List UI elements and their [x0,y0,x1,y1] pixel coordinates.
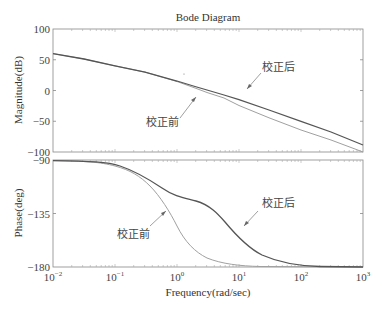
mag-tick-neg50: −50 [33,115,51,127]
chart-title: Bode Diagram [176,11,241,23]
phase-axis-label: Phase(deg) [12,188,25,237]
phase-label-after: 校正后 [262,196,295,210]
magnitude-panel: 100 50 0 −50 −100 Magnitude(dB) 校正前 校正后 [12,23,363,158]
bode-diagram: Bode Diagram 100 50 0 −50 −1 [0,0,382,311]
phase-panel: −90 −135 −180 Phase(deg) 校正前 校正后 [12,154,363,273]
x-tick-1e3: 103 [356,270,371,283]
magnitude-x-minor-ticks [72,29,361,152]
phase-tick-neg135: −135 [27,208,50,220]
mag-tick-0: 0 [45,85,51,97]
phase-tick-neg90: −90 [33,154,51,166]
phase-label-before: 校正前 [117,227,150,241]
mag-arrowhead-before [191,97,196,102]
x-tick-1e-2: 10−2 [44,270,63,283]
x-tick-1e2: 102 [294,270,309,283]
x-tick-1e1: 101 [232,270,247,283]
magnitude-curve-before [53,54,363,152]
mag-label-before: 校正前 [146,115,179,129]
x-axis-label: Frequency(rad/sec) [166,286,251,299]
x-tick-1e0: 100 [170,270,185,283]
x-axis-ticks: 10−2 10−1 100 101 102 103 [44,270,371,283]
stray-mark [183,73,184,74]
mag-arrowhead-after [247,84,252,89]
magnitude-axis-label: Magnitude(dB) [12,56,25,124]
phase-x-ticks [72,160,361,267]
mag-label-after: 校正后 [262,60,295,74]
mag-tick-100: 100 [34,23,51,35]
mag-tick-50: 50 [39,54,51,66]
phase-curve-before [53,161,363,267]
phase-axes-frame [53,160,363,267]
x-tick-1e-1: 10−1 [106,270,125,283]
magnitude-curve-after [53,54,363,145]
phase-curve-after [53,161,363,267]
